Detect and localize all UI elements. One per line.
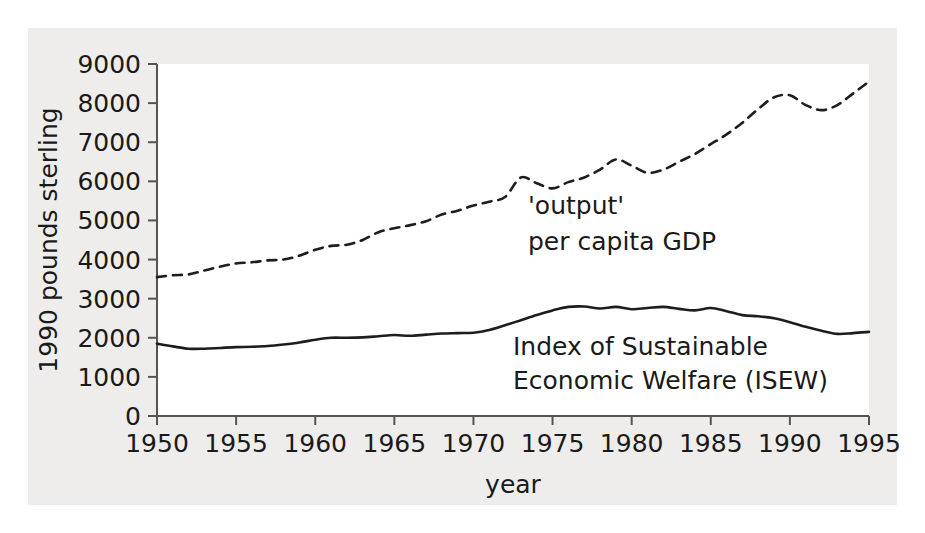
x-tick-label-1975: 1975 [521, 429, 585, 458]
x-tick-label-1980: 1980 [600, 429, 664, 458]
x-axis-title: year [485, 470, 541, 499]
annotation-isew-line1: Index of Sustainable [513, 332, 768, 361]
annotation-gdp-line2: per capita GDP [528, 227, 716, 256]
y-axis-title: 1990 pounds sterling [34, 107, 63, 372]
y-tick-label-1000: 1000 [77, 363, 141, 392]
x-tick-label-1995: 1995 [837, 429, 901, 458]
y-tick-label-9000: 9000 [77, 50, 141, 79]
x-tick-label-1965: 1965 [363, 429, 427, 458]
annotation-isew-line2: Economic Welfare (ISEW) [513, 366, 828, 395]
plot-panel [157, 64, 869, 416]
y-tick-label-5000: 5000 [77, 206, 141, 235]
x-tick-label-1960: 1960 [283, 429, 347, 458]
x-tick-label-1985: 1985 [679, 429, 743, 458]
x-tick-label-1950: 1950 [125, 429, 189, 458]
y-tick-label-3000: 3000 [77, 285, 141, 314]
x-tick-label-1970: 1970 [442, 429, 506, 458]
y-tick-label-2000: 2000 [77, 324, 141, 353]
chart-plot-area: 0100020003000400050006000700080009000 19… [0, 0, 925, 533]
y-tick-label-6000: 6000 [77, 167, 141, 196]
annotation-gdp-line1: 'output' [528, 191, 624, 220]
y-tick-label-7000: 7000 [77, 128, 141, 157]
y-axis-ticks: 0100020003000400050006000700080009000 [77, 50, 157, 431]
y-tick-label-0: 0 [125, 402, 141, 431]
x-tick-label-1955: 1955 [204, 429, 268, 458]
y-tick-label-8000: 8000 [77, 89, 141, 118]
x-axis-ticks: 1950195519601965197019751980198519901995 [125, 416, 901, 458]
x-tick-label-1990: 1990 [758, 429, 822, 458]
y-tick-label-4000: 4000 [77, 246, 141, 275]
chart-figure: 0100020003000400050006000700080009000 19… [0, 0, 925, 533]
